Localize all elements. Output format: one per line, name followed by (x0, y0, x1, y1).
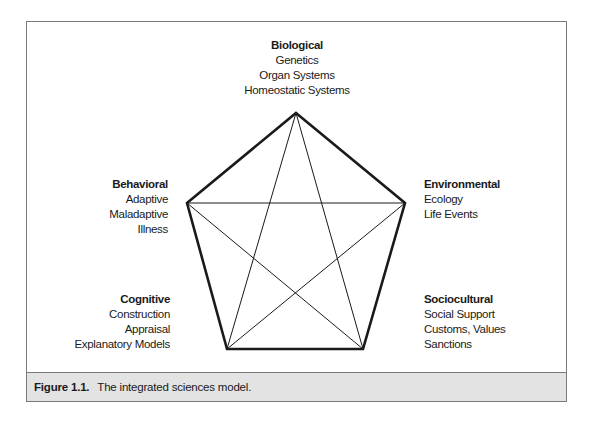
node-item: Ecology (424, 192, 500, 207)
node-title: Cognitive (74, 292, 170, 307)
line-biological-sociocultural (296, 113, 363, 349)
pentagon-outline (187, 113, 405, 349)
node-item: Customs, Values (424, 322, 506, 337)
node-item: Genetics (244, 53, 350, 68)
node-item: Social Support (424, 307, 506, 322)
node-item: Explanatory Models (74, 337, 170, 352)
node-item: Maladaptive (109, 207, 168, 222)
node-environmental: Environmental Ecology Life Events (424, 177, 500, 222)
node-item: Appraisal (74, 322, 170, 337)
node-title: Behavioral (109, 177, 168, 192)
line-environmental-cognitive (227, 203, 405, 349)
node-cognitive: Cognitive Construction Appraisal Explana… (74, 292, 170, 352)
node-item: Adaptive (109, 192, 168, 207)
node-item: Organ Systems (244, 68, 350, 83)
node-sociocultural: Sociocultural Social Support Customs, Va… (424, 292, 506, 352)
node-title: Biological (244, 38, 350, 53)
node-item: Sanctions (424, 337, 506, 352)
line-biological-cognitive (227, 113, 296, 349)
line-behavioral-sociocultural (187, 203, 363, 349)
node-item: Life Events (424, 207, 500, 222)
node-biological: Biological Genetics Organ Systems Homeos… (244, 38, 350, 98)
node-item: Homeostatic Systems (244, 83, 350, 98)
node-item: Illness (109, 222, 168, 237)
node-behavioral: Behavioral Adaptive Maladaptive Illness (109, 177, 168, 237)
node-item: Construction (74, 307, 170, 322)
node-title: Environmental (424, 177, 500, 192)
node-title: Sociocultural (424, 292, 506, 307)
